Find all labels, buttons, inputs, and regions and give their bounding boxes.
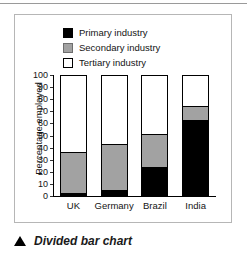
segment-primary — [142, 167, 167, 195]
y-axis-line — [53, 75, 54, 196]
y-axis-tick-label: 100 — [33, 71, 48, 80]
y-axis-tick-label: 70 — [38, 107, 48, 116]
segment-divider — [142, 134, 167, 135]
y-axis-tick — [50, 87, 53, 88]
y-axis-tick — [50, 111, 53, 112]
y-axis-tick-label: 10 — [38, 179, 48, 188]
y-axis-tick — [50, 99, 53, 100]
y-axis-tick-label: 90 — [38, 83, 48, 92]
chart-plot-wrapper: Percentage employed 10090807060504030201… — [15, 15, 231, 222]
bar-india — [182, 75, 209, 196]
y-axis-tick — [50, 148, 53, 149]
segment-divider — [183, 106, 208, 107]
y-axis-tick — [50, 123, 53, 124]
y-axis-tick — [50, 75, 53, 76]
segment-primary — [102, 190, 127, 195]
segment-secondary — [142, 135, 167, 168]
y-axis-tick-label: 30 — [38, 155, 48, 164]
y-axis-tick — [50, 136, 53, 137]
figure-caption-text: Divided bar chart — [34, 234, 132, 248]
segment-secondary — [183, 107, 208, 120]
x-axis-label-brazil: Brazil — [143, 200, 167, 211]
y-axis-tick — [50, 160, 53, 161]
y-axis-tick-label: 20 — [38, 167, 48, 176]
y-axis-tick — [50, 172, 53, 173]
bar-uk — [60, 75, 87, 196]
segment-secondary — [61, 153, 86, 193]
x-axis-label-germany: Germany — [95, 200, 134, 211]
x-axis-line — [53, 196, 216, 197]
y-axis-tick-label: 60 — [38, 119, 48, 128]
page-top-rule — [0, 3, 247, 4]
segment-primary — [183, 120, 208, 195]
y-axis-tick-label: 0 — [43, 192, 48, 201]
segment-divider — [61, 152, 86, 153]
triangle-up-icon — [14, 236, 26, 246]
segment-secondary — [102, 145, 127, 190]
x-axis-label-india: India — [185, 200, 206, 211]
x-axis-label-uk: UK — [67, 200, 80, 211]
bar-germany — [101, 75, 128, 196]
segment-divider — [102, 144, 127, 145]
y-axis-tick — [50, 196, 53, 197]
segment-primary — [61, 193, 86, 195]
figure-container: Primary industry Secondary industry Tert… — [14, 14, 232, 223]
figure-caption: Divided bar chart — [14, 231, 132, 251]
y-axis-tick-label: 80 — [38, 95, 48, 104]
y-axis-tick-label: 50 — [38, 131, 48, 140]
y-axis-tick-label: 40 — [38, 143, 48, 152]
y-axis-tick — [50, 184, 53, 185]
plot-area: 1009080706050403020100UKGermanyBrazilInd… — [53, 75, 216, 196]
bar-brazil — [141, 75, 168, 196]
